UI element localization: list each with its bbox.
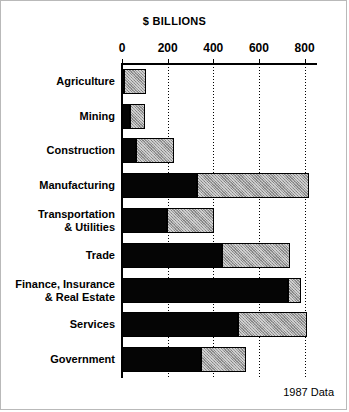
x-axis-tick-mark <box>122 59 123 64</box>
category-label: Construction <box>3 144 115 157</box>
x-axis-tick-label: 800 <box>295 41 315 55</box>
bar-segment-light <box>201 347 247 372</box>
x-axis-tick-labels: 0200400600800 <box>1 41 348 57</box>
bar-segment-light <box>124 69 146 94</box>
category-label: Mining <box>3 110 115 123</box>
x-axis-tick-label: 200 <box>158 41 178 55</box>
category-labels: AgricultureMiningConstructionManufacturi… <box>1 64 115 377</box>
bar-row <box>122 278 301 303</box>
bar-segment-dark <box>122 312 238 337</box>
bar-row <box>122 243 290 268</box>
category-label-line: Services <box>3 318 115 331</box>
category-label: Finance, Insurance& Real Estate <box>3 278 115 303</box>
bar-segment-light <box>288 278 301 303</box>
data-year-annotation: 1987 Data <box>283 386 334 398</box>
bar-segment-light <box>136 138 174 163</box>
bar-row <box>122 173 309 198</box>
category-label-line: Mining <box>3 110 115 123</box>
category-label-line: & Real Estate <box>3 291 115 304</box>
bar-row <box>122 312 307 337</box>
chart-title: $ BILLIONS <box>1 15 348 27</box>
category-label-line: Construction <box>3 144 115 157</box>
bar-segment-dark <box>122 243 222 268</box>
x-axis-tick-mark <box>259 59 260 64</box>
bar-segment-dark <box>122 208 167 233</box>
x-axis-tick-label: 0 <box>119 41 126 55</box>
x-axis-tick-label: 400 <box>203 41 223 55</box>
category-label-line: & Utilities <box>3 221 115 234</box>
x-axis-tick-mark <box>213 59 214 64</box>
bar-row <box>122 347 246 372</box>
x-axis-tick-mark <box>305 59 306 64</box>
category-label-line: Trade <box>3 249 115 262</box>
category-label-line: Government <box>3 353 115 366</box>
bar-segment-light <box>197 173 309 198</box>
chart-container: $ BILLIONS 0200400600800 AgricultureMini… <box>0 0 347 410</box>
bar-segment-dark <box>122 278 288 303</box>
bar-segment-light <box>238 312 306 337</box>
bar-row <box>122 138 174 163</box>
category-label-line: Finance, Insurance <box>3 278 115 291</box>
bar-segment-light <box>130 104 144 129</box>
x-axis-tick-label: 600 <box>249 41 269 55</box>
category-label: Government <box>3 353 115 366</box>
category-label-line: Transportation <box>3 208 115 221</box>
bar-segment-light <box>167 208 215 233</box>
x-axis-tick-mark <box>168 59 169 64</box>
bar-segment-dark <box>122 347 201 372</box>
bar-segment-dark <box>122 104 130 129</box>
category-label: Trade <box>3 249 115 262</box>
category-label: Agriculture <box>3 75 115 88</box>
category-label: Services <box>3 318 115 331</box>
category-label-line: Manufacturing <box>3 179 115 192</box>
plot-area <box>122 64 316 377</box>
category-label: Manufacturing <box>3 179 115 192</box>
bar-segment-dark <box>122 138 136 163</box>
bar-row <box>122 104 145 129</box>
category-label-line: Agriculture <box>3 75 115 88</box>
bar-segment-dark <box>122 173 197 198</box>
category-label: Transportation& Utilities <box>3 208 115 233</box>
bar-row <box>122 69 146 94</box>
bar-segment-light <box>222 243 289 268</box>
bar-row <box>122 208 214 233</box>
